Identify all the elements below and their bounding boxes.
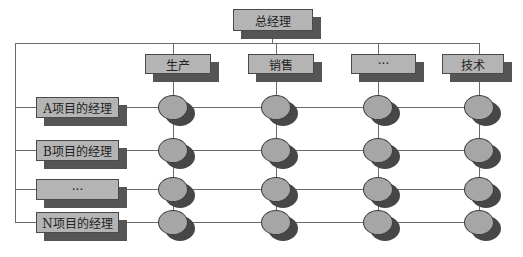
pm-label: A项目的经理	[43, 99, 112, 116]
intersection-node-ellipsis-sales	[261, 177, 291, 202]
pm-box-a: A项目的经理	[36, 97, 119, 118]
top-horizontal-bus	[15, 43, 480, 44]
intersection-node-a-technology	[464, 95, 494, 120]
intersection-node-b-technology	[464, 138, 494, 163]
general-manager-box: 总经理	[233, 9, 313, 31]
general-manager-label: 总经理	[255, 12, 291, 29]
dept-box-ellipsis: ···	[351, 54, 416, 74]
pm-box-ellipsis: ···	[36, 179, 119, 200]
dept-label: 技术	[461, 56, 485, 73]
pm-label: B项目的经理	[43, 142, 112, 159]
dept-box-sales: 销售	[248, 54, 314, 74]
intersection-node-n-production	[158, 210, 188, 235]
intersection-node-n-sales	[261, 210, 291, 235]
intersection-node-ellipsis-technology	[464, 177, 494, 202]
intersection-node-a-sales	[261, 95, 291, 120]
dept-box-technology: 技术	[442, 54, 504, 74]
intersection-node-b-production	[158, 138, 188, 163]
intersection-node-ellipsis-production	[158, 177, 188, 202]
left-vertical-bus	[15, 43, 16, 223]
dept-box-production: 生产	[145, 54, 211, 74]
intersection-node-n-ellipsis	[363, 210, 393, 235]
figure-caption	[200, 249, 330, 253]
intersection-node-a-ellipsis	[363, 95, 393, 120]
dept-label: 销售	[269, 56, 293, 73]
dept-label: ···	[378, 57, 389, 71]
pm-label: ···	[72, 183, 83, 197]
intersection-node-b-ellipsis	[363, 138, 393, 163]
intersection-node-b-sales	[261, 138, 291, 163]
pm-label: N项目的经理	[42, 214, 113, 231]
pm-box-b: B项目的经理	[36, 140, 119, 161]
intersection-node-n-technology	[464, 210, 494, 235]
intersection-node-a-production	[158, 95, 188, 120]
pm-box-n: N项目的经理	[36, 212, 119, 233]
dept-label: 生产	[166, 56, 190, 73]
intersection-node-ellipsis-ellipsis	[363, 177, 393, 202]
